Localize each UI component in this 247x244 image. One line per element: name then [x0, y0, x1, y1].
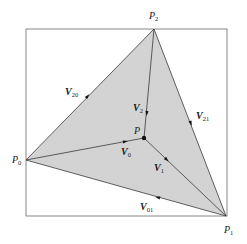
- point-p-dot: [142, 136, 146, 140]
- label-v20: V20: [65, 86, 78, 98]
- triangle-vector-diagram: P2 P0 P1 P V20 V2 V21 V0 V1 V01: [0, 0, 247, 244]
- label-p1: P1: [223, 224, 233, 236]
- label-v21: V21: [196, 110, 209, 122]
- label-v01: V01: [140, 201, 153, 213]
- label-p: P: [133, 125, 140, 136]
- label-p0: P0: [11, 154, 21, 166]
- label-p2: P2: [148, 10, 158, 22]
